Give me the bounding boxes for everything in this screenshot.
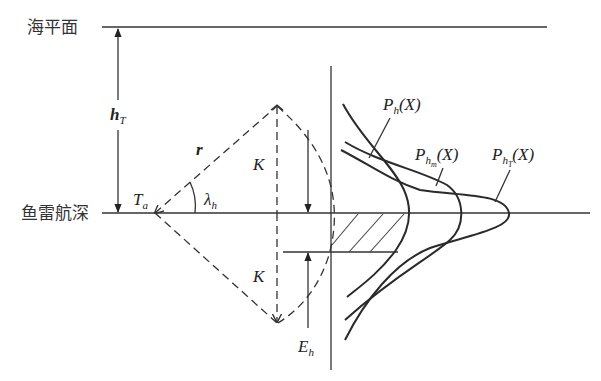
r-label: r [196, 140, 203, 159]
P-h-label: Ph(X) [382, 95, 421, 116]
leader-P-hT [495, 170, 510, 202]
lambda-angle-arc [190, 182, 195, 213]
hT-label: hT [110, 105, 126, 126]
curve-P-hm [345, 142, 461, 320]
torpedo-depth-label: 鱼雷航深 [21, 203, 89, 223]
dashed-arc [277, 106, 334, 323]
leader-P-h [369, 118, 390, 158]
K-lower-label: K [252, 267, 266, 286]
Eh-label: Eh [297, 337, 314, 358]
K-upper-label: K [252, 155, 266, 174]
torpedo-depth-probability-diagram: 海平面 鱼雷航深 hT Ta r K K λh Eh [0, 0, 601, 381]
P-hm-label: Phm(X) [414, 145, 459, 169]
P-hT-label: PhT(X) [491, 145, 534, 169]
sea-surface-label: 海平面 [27, 17, 78, 37]
curve-P-hT [341, 150, 509, 340]
Ta-label: Ta [133, 190, 148, 211]
hatched-region [332, 214, 404, 252]
lambda-h-label: λh [203, 190, 217, 211]
